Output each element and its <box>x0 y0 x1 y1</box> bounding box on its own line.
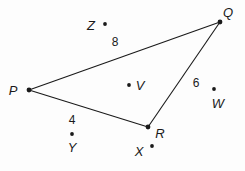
vertex-label-R: R <box>155 127 164 140</box>
point-label-X: X <box>135 145 144 158</box>
point-label-V: V <box>136 79 145 92</box>
side-length-label-PQ: 8 <box>112 36 119 48</box>
point-dot-Z <box>103 22 107 26</box>
geometry-figure: P Q R 8 4 6 Z V W Y X <box>0 0 245 171</box>
triangle-svg <box>0 0 245 171</box>
edge-PR <box>29 90 148 127</box>
vertex-dot-Q <box>218 20 223 25</box>
vertex-label-P: P <box>9 84 18 97</box>
vertex-label-Q: Q <box>223 6 233 19</box>
edge-QR <box>148 22 220 127</box>
point-dot-Y <box>70 132 74 136</box>
point-dot-V <box>127 83 131 87</box>
side-length-label-QR: 6 <box>193 77 200 89</box>
edge-PQ <box>29 22 220 90</box>
point-label-Y: Y <box>68 141 77 154</box>
point-label-Z: Z <box>87 19 95 32</box>
side-length-label-PR: 4 <box>69 114 76 126</box>
point-dot-W <box>212 87 216 91</box>
point-label-W: W <box>212 97 224 110</box>
vertex-dot-R <box>146 125 151 130</box>
vertex-dots <box>27 20 223 130</box>
point-dot-X <box>150 144 154 148</box>
triangle-edges <box>29 22 220 127</box>
vertex-dot-P <box>27 88 32 93</box>
